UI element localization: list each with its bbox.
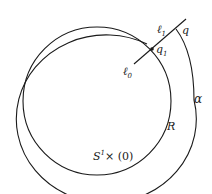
diagram-canvas: ℓ1 q q1 ℓ0 α R S1× (0)	[0, 0, 212, 194]
label-R: R	[166, 120, 175, 133]
label-q: q	[182, 24, 189, 37]
label-l0: ℓ0	[123, 65, 133, 80]
label-q1: q1	[156, 43, 168, 58]
label-l1: ℓ1	[157, 23, 166, 38]
outer-curve-alpha	[16, 29, 196, 194]
label-alpha: α	[194, 92, 202, 106]
label-s1-times-0: S1× (0)	[93, 149, 133, 163]
point-q1	[150, 47, 154, 51]
